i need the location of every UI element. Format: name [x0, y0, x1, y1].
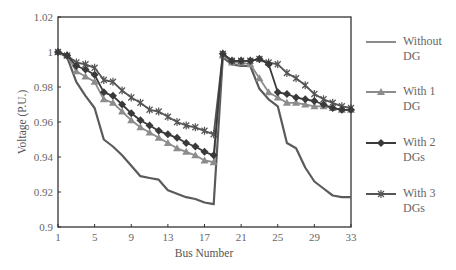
y-tick-label: 0.9: [39, 221, 53, 233]
legend-label: With 1 DG: [403, 84, 455, 114]
series-with-1-dg: [54, 48, 355, 165]
legend-label: Without DG: [403, 34, 455, 64]
x-tick-label: 9: [129, 231, 135, 243]
legend-item-with-2-dgs: With 2 DGs: [366, 135, 456, 171]
x-axis-title: Bus Number: [175, 247, 234, 259]
y-tick-label: 0.96: [34, 116, 54, 128]
legend-label-line: With 2: [403, 135, 455, 150]
legend-label: With 3 DGs: [403, 186, 455, 216]
y-tick-label: 0.92: [34, 186, 53, 198]
legend-label-line: With 1: [403, 84, 455, 99]
legend-label-line: DGs: [403, 201, 455, 216]
plot-area: [58, 17, 351, 227]
legend-star-marker-icon: [366, 188, 396, 200]
x-tick-label: 5: [92, 231, 98, 243]
series-with-2-dgs: [54, 48, 355, 159]
y-axis-title: Voltage (P.U.): [16, 90, 29, 155]
series-layer: [54, 48, 355, 204]
y-axis: 0.90.920.940.960.9811.02: [34, 11, 61, 233]
x-tick-label: 13: [162, 231, 174, 243]
legend-label-line: DGs: [403, 150, 455, 165]
x-tick-label: 33: [346, 231, 358, 243]
legend-label-line: With 3: [403, 186, 455, 201]
x-tick-label: 29: [309, 231, 321, 243]
x-tick-label: 25: [272, 231, 284, 243]
legend-item-with-1-dg: With 1 DG: [366, 84, 456, 120]
legend-line-plain-icon: [366, 36, 396, 48]
y-tick-label: 1.02: [34, 11, 53, 23]
legend-item-with-3-dgs: With 3 DGs: [366, 186, 456, 222]
x-tick-label: 1: [55, 231, 61, 243]
legend-label: With 2 DGs: [403, 135, 455, 165]
y-tick-label: 0.94: [34, 151, 54, 163]
legend-label-line: DG: [403, 99, 455, 114]
legend-label-line: Without: [403, 34, 455, 49]
y-tick-label: 0.98: [34, 81, 54, 93]
x-tick-label: 17: [199, 231, 211, 243]
legend-triangle-marker-icon: [366, 86, 396, 98]
x-tick-label: 21: [236, 231, 247, 243]
legend-label-line: DG: [403, 49, 455, 64]
y-tick-label: 1: [48, 46, 54, 58]
legend-item-without-dg: Without DG: [366, 34, 456, 70]
legend-diamond-marker-icon: [366, 137, 396, 149]
